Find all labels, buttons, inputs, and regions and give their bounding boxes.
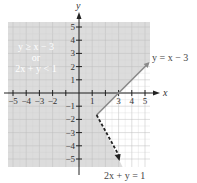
y-tick-label: 5 <box>71 22 76 32</box>
x-axis-label: x <box>162 87 168 98</box>
y-tick-label: −1 <box>65 101 75 111</box>
y-tick-label: −5 <box>65 154 75 164</box>
x-tick-label: −4 <box>21 96 31 106</box>
region-label-line2: or <box>32 52 41 63</box>
y-tick-label: −4 <box>65 141 75 151</box>
y-tick-label: 1 <box>71 75 76 85</box>
x-tick-label: −5 <box>8 96 18 106</box>
x-tick-label: −3 <box>35 96 45 106</box>
line2-label: 2x + y = 1 <box>104 170 145 181</box>
x-tick-label: −2 <box>48 96 58 106</box>
plot-area: −5−4−3−2134554321−1−2−3−4−5xyy ≥ x − 3or… <box>4 0 188 181</box>
x-tick-label: 5 <box>143 96 148 106</box>
y-tick-label: −3 <box>65 128 75 138</box>
x-tick-label: 1 <box>90 96 95 106</box>
region-label-line3: 2x + y < 1 <box>15 63 56 74</box>
y-tick-label: 2 <box>71 62 76 72</box>
y-tick-label: 4 <box>71 35 76 45</box>
x-axis-arrow-icon <box>153 91 160 96</box>
y-axis-label: y <box>75 0 81 11</box>
y-tick-label: 3 <box>71 48 76 58</box>
line1-label: y = x − 3 <box>152 52 188 63</box>
y-axis-arrow-icon <box>77 12 82 19</box>
region-label-line1: y ≥ x − 3 <box>18 41 54 52</box>
x-tick-label: 4 <box>130 96 135 106</box>
inequality-graph: −5−4−3−2134554321−1−2−3−4−5xyy ≥ x − 3or… <box>0 0 197 183</box>
y-tick-label: −2 <box>65 114 75 124</box>
x-tick-label: 3 <box>116 96 121 106</box>
